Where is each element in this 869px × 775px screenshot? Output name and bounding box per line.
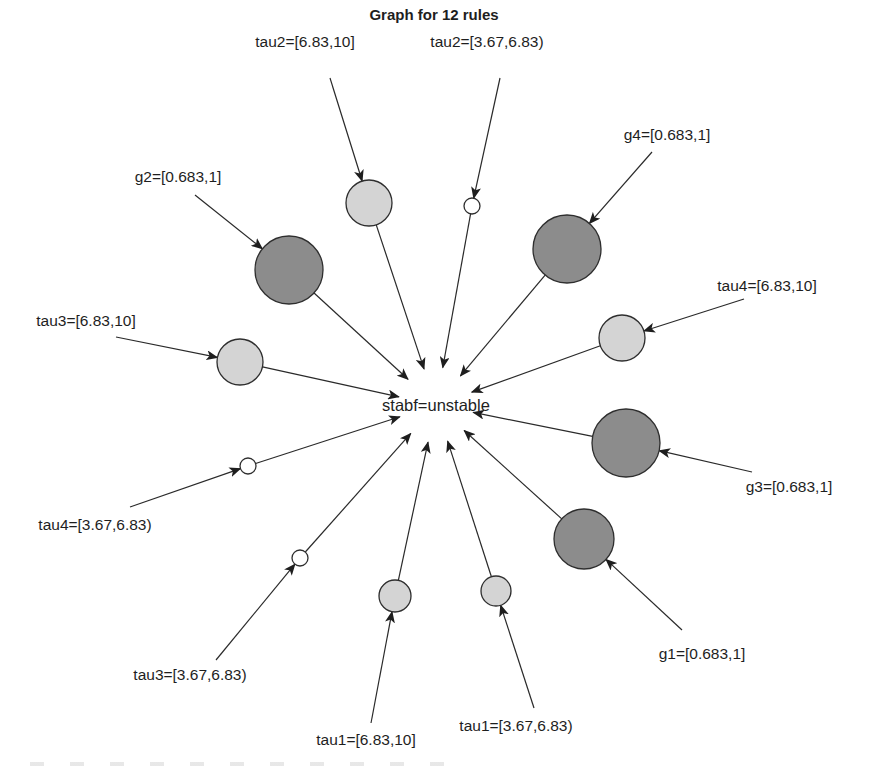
rule-node-light xyxy=(481,576,511,606)
edge-node-to-center xyxy=(473,412,592,436)
edge-node-to-center xyxy=(472,346,601,392)
edge-label-to-node xyxy=(644,299,744,331)
edge-node-to-center xyxy=(464,431,562,519)
edge-label-to-node xyxy=(589,152,652,223)
condition-label: tau1=[6.83,10] xyxy=(316,731,416,748)
rule-node-light xyxy=(599,315,645,361)
edge-node-to-center xyxy=(448,441,492,577)
condition-label: g3=[0.683,1] xyxy=(746,478,833,495)
edge-node-to-center xyxy=(262,367,398,397)
center-node-label: stabf=unstable xyxy=(382,396,490,414)
edge-label-to-node xyxy=(474,78,500,198)
condition-label: g4=[0.683,1] xyxy=(624,126,711,143)
condition-label: tau4=[6.83,10] xyxy=(717,277,817,294)
edge-label-to-node xyxy=(501,605,534,708)
condition-label: tau4=[3.67,6.83) xyxy=(38,516,151,533)
edge-node-to-center xyxy=(376,225,424,369)
rule-node-white xyxy=(464,198,480,214)
rule-node-dark xyxy=(592,409,660,477)
truncated-caption xyxy=(30,762,450,766)
edge-label-to-node xyxy=(195,195,262,249)
rule-graph: Graph for 12 rules tau2=[6.83,10]tau2=[3… xyxy=(0,0,869,775)
edge-node-to-center xyxy=(305,433,410,552)
condition-label: g1=[0.683,1] xyxy=(659,645,746,662)
rule-node-dark xyxy=(554,509,614,569)
rule-node-light xyxy=(217,339,263,385)
graph-title: Graph for 12 rules xyxy=(369,6,498,23)
rule-node-white xyxy=(292,550,308,566)
edge-label-to-node xyxy=(659,451,752,472)
edge-node-to-center xyxy=(443,214,471,368)
labels-layer: tau2=[6.83,10]tau2=[3.67,6.83)g4=[0.683,… xyxy=(36,33,832,748)
edge-node-to-center xyxy=(256,417,400,464)
condition-label: tau1=[3.67,6.83) xyxy=(459,717,572,734)
edge-label-to-node xyxy=(371,612,392,723)
condition-label: g2=[0.683,1] xyxy=(135,168,222,185)
condition-label: tau2=[3.67,6.83) xyxy=(430,33,543,50)
condition-label: tau3=[6.83,10] xyxy=(36,312,136,329)
edge-label-to-node xyxy=(130,469,240,507)
rule-node-light xyxy=(379,580,411,612)
rule-node-white xyxy=(240,458,256,474)
edge-node-to-center xyxy=(314,293,408,379)
rule-node-dark xyxy=(255,236,323,304)
rule-node-light xyxy=(346,180,392,226)
edge-label-to-node xyxy=(606,559,682,630)
edge-label-to-node xyxy=(216,564,295,660)
condition-label: tau2=[6.83,10] xyxy=(255,33,355,50)
edge-label-to-node xyxy=(330,78,362,181)
condition-label: tau3=[3.67,6.83) xyxy=(133,666,246,683)
edge-node-to-center xyxy=(460,275,545,376)
edge-node-to-center xyxy=(398,442,428,580)
rule-node-dark xyxy=(533,215,601,283)
edge-label-to-node xyxy=(116,337,217,357)
